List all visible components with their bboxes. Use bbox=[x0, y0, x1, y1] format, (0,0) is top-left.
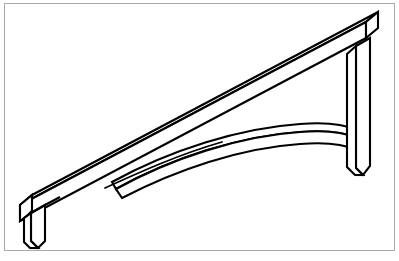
vertical-post-front-face bbox=[356, 38, 370, 175]
figure-root bbox=[0, 0, 399, 261]
bracket-line-drawing bbox=[0, 0, 399, 261]
